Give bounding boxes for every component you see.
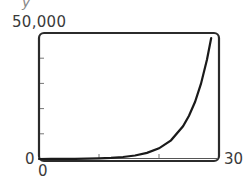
chart-plot-area xyxy=(0,0,249,177)
exponential-curve xyxy=(39,38,211,159)
plot-frame xyxy=(39,33,219,161)
axis-ticks xyxy=(40,58,159,159)
